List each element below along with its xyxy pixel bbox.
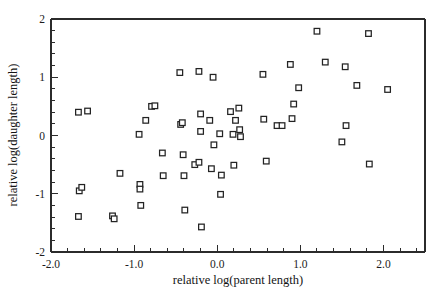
data-point-marker — [339, 139, 345, 145]
data-point-marker — [199, 224, 205, 230]
x-tick-label: -1.0 — [125, 258, 143, 270]
data-point-marker — [288, 62, 294, 68]
data-point-marker — [196, 69, 202, 75]
data-point-marker — [289, 116, 295, 122]
data-point-marker — [367, 161, 373, 167]
data-point-marker — [137, 186, 143, 192]
data-point-marker — [238, 134, 244, 140]
y-axis-tick-labels: -2-1012 — [35, 13, 45, 258]
y-tick-label: -2 — [35, 246, 45, 258]
data-point-marker — [314, 28, 320, 34]
x-tick-label: -2.0 — [42, 258, 60, 270]
x-tick-label: 2.0 — [376, 258, 391, 270]
data-point-marker — [198, 129, 204, 135]
data-point-marker — [385, 87, 391, 93]
data-point-marker — [322, 59, 328, 65]
data-point-marker — [177, 70, 183, 76]
data-point-marker — [219, 172, 225, 178]
data-point-marker — [343, 123, 349, 129]
data-point-group — [76, 28, 391, 229]
data-point-marker — [296, 85, 302, 91]
data-point-marker — [342, 64, 348, 70]
x-tick-label: 0.0 — [210, 258, 225, 270]
data-point-marker — [209, 166, 215, 172]
data-point-marker — [180, 152, 186, 158]
data-point-marker — [117, 171, 123, 177]
data-point-marker — [182, 207, 188, 213]
data-point-marker — [354, 83, 360, 89]
data-point-marker — [198, 111, 204, 117]
data-point-marker — [136, 132, 142, 138]
y-tick-label: 0 — [39, 130, 45, 142]
x-axis-title: relative log(parent length) — [173, 273, 304, 287]
data-point-marker — [111, 216, 117, 222]
y-axis-ticks — [51, 19, 58, 252]
data-point-marker — [291, 101, 297, 107]
data-point-marker — [143, 118, 149, 124]
y-axis-title: relative log(daughter length) — [6, 64, 20, 207]
data-point-marker — [79, 185, 85, 191]
data-point-marker — [217, 131, 223, 137]
data-point-marker — [76, 109, 82, 115]
data-point-marker — [279, 123, 285, 129]
data-point-marker — [233, 118, 239, 124]
data-point-marker — [207, 118, 213, 124]
x-tick-label: 1.0 — [293, 258, 308, 270]
data-point-marker — [76, 214, 82, 220]
data-point-marker — [237, 127, 243, 133]
data-point-marker — [231, 162, 237, 168]
x-axis-ticks — [51, 245, 417, 252]
x-axis-tick-labels: -2.0-1.00.01.02.0 — [42, 258, 391, 270]
y-tick-label: 1 — [39, 71, 45, 83]
data-point-marker — [263, 158, 269, 164]
data-point-marker — [261, 116, 267, 122]
data-point-marker — [160, 150, 166, 156]
data-point-marker — [366, 31, 372, 37]
data-point-marker — [180, 120, 186, 126]
data-point-marker — [85, 108, 91, 114]
data-point-marker — [218, 192, 224, 198]
scatter-plot: -2-1012 -2.0-1.00.01.02.0 relative log(p… — [0, 0, 439, 296]
data-point-marker — [228, 109, 234, 115]
data-point-marker — [160, 173, 166, 179]
data-point-marker — [260, 72, 266, 78]
data-point-marker — [181, 173, 187, 179]
data-point-marker — [152, 103, 158, 109]
data-point-marker — [210, 74, 216, 80]
y-tick-label: -1 — [35, 188, 45, 200]
data-point-marker — [138, 203, 144, 209]
data-point-marker — [196, 160, 202, 166]
y-tick-label: 2 — [39, 13, 45, 25]
data-point-marker — [211, 142, 217, 148]
data-point-marker — [230, 132, 236, 138]
data-point-marker — [236, 105, 242, 111]
chart-page: -2-1012 -2.0-1.00.01.02.0 relative log(p… — [0, 0, 439, 296]
